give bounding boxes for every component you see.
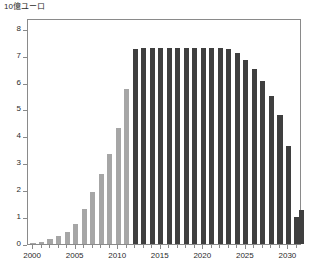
- x-tick-mark: [245, 245, 246, 249]
- bar-2026: [252, 69, 257, 244]
- bar-2007: [90, 192, 95, 244]
- x-tick-mark: [66, 245, 67, 248]
- x-tick-mark: [194, 245, 195, 248]
- x-tick-label: 2010: [108, 251, 126, 260]
- bar-2013: [141, 48, 146, 244]
- bar-2006: [82, 209, 87, 244]
- bar-2018: [184, 48, 189, 244]
- x-tick-mark: [219, 245, 220, 248]
- x-tick-mark: [177, 245, 178, 248]
- y-tick-label: 3: [17, 158, 21, 167]
- bar-2014: [150, 48, 155, 244]
- bar-2017: [175, 48, 180, 244]
- bar-2004: [65, 232, 70, 244]
- x-tick-mark: [262, 245, 263, 248]
- x-tick-mark: [109, 245, 110, 248]
- bar-2003: [56, 236, 61, 244]
- bar-2021: [209, 48, 214, 244]
- bar-2025: [243, 60, 248, 244]
- x-tick-mark: [134, 245, 135, 248]
- x-tick-mark: [287, 245, 288, 249]
- bar-2030: [286, 146, 291, 244]
- bar-2011: [124, 89, 129, 244]
- x-tick-mark: [236, 245, 237, 248]
- bar-2015: [158, 48, 163, 244]
- bar-2027: [260, 81, 265, 244]
- x-tick-mark: [151, 245, 152, 248]
- y-tick-label: 7: [17, 51, 21, 60]
- y-tick-label: 5: [17, 104, 21, 113]
- bar-series: [28, 20, 300, 244]
- x-tick-mark: [117, 245, 118, 249]
- bar-2002: [47, 239, 52, 244]
- y-axis-label: 10億ユーロ: [4, 2, 45, 12]
- bar-2019: [192, 48, 197, 244]
- bar-2008: [99, 174, 104, 244]
- x-tick-mark: [92, 245, 93, 248]
- bar-2016: [167, 48, 172, 244]
- y-tick-label: 0: [17, 239, 21, 248]
- x-tick-mark: [100, 245, 101, 248]
- bar-2009: [107, 154, 112, 244]
- bar-2001: [39, 242, 44, 244]
- x-tick-label: 2020: [193, 251, 211, 260]
- y-tick-label: 4: [17, 131, 21, 140]
- x-tick-label: 2025: [236, 251, 254, 260]
- x-tick-label: 2030: [278, 251, 296, 260]
- bar-2005: [73, 224, 78, 244]
- x-tick-mark: [83, 245, 84, 248]
- x-tick-mark: [211, 245, 212, 248]
- bar-2022: [218, 48, 223, 244]
- y-axis-ticks: 012345678: [0, 19, 27, 245]
- y-tick-label: 8: [17, 24, 21, 33]
- y-tick-label: 1: [17, 212, 21, 221]
- x-tick-mark: [168, 245, 169, 248]
- plot-area: [27, 19, 301, 245]
- bar-2024: [235, 53, 240, 244]
- x-axis-ticks: 2000200520102015202020252030: [27, 245, 301, 271]
- bar-2012: [133, 49, 138, 244]
- x-tick-mark: [126, 245, 127, 248]
- bar-2023: [226, 49, 231, 244]
- x-tick-mark: [185, 245, 186, 248]
- x-tick-mark: [143, 245, 144, 248]
- y-tick-label: 2: [17, 185, 21, 194]
- bar-2010: [116, 128, 121, 244]
- x-tick-mark: [49, 245, 50, 248]
- bar-2029: [277, 115, 282, 244]
- chart-figure: 10億ユーロ 012345678 20002005201020152020202…: [0, 0, 309, 271]
- x-tick-mark: [202, 245, 203, 249]
- x-tick-mark: [253, 245, 254, 248]
- x-tick-mark: [160, 245, 161, 249]
- x-tick-mark: [41, 245, 42, 248]
- x-tick-label: 2000: [23, 251, 41, 260]
- x-tick-label: 2005: [66, 251, 84, 260]
- x-tick-mark: [228, 245, 229, 248]
- bar-extra-0: [299, 210, 304, 244]
- bar-2020: [201, 48, 206, 244]
- x-tick-mark: [75, 245, 76, 249]
- x-tick-mark: [58, 245, 59, 248]
- y-tick-label: 6: [17, 78, 21, 87]
- x-tick-mark: [279, 245, 280, 248]
- bar-2028: [269, 96, 274, 244]
- x-tick-mark: [270, 245, 271, 248]
- x-tick-mark: [296, 245, 297, 248]
- x-tick-mark: [32, 245, 33, 249]
- bar-2000: [30, 243, 35, 244]
- x-tick-label: 2015: [151, 251, 169, 260]
